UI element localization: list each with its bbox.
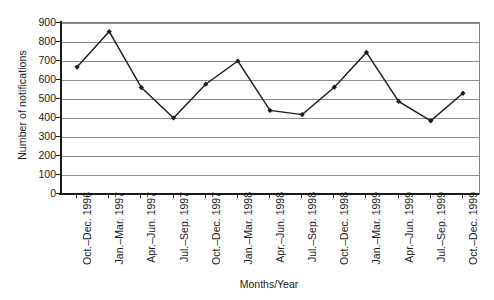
x-axis-tick-label: Jan.–Mar. 1999 (370, 192, 382, 272)
x-axis-tick-label: Oct.–Dec. 1998 (338, 192, 350, 272)
x-axis-tick-label: Oct.–Dec. 1999 (467, 192, 479, 272)
line-chart: Number of notifications 0100200300400500… (0, 0, 494, 300)
x-axis-title: Months/Year (60, 278, 478, 290)
x-axis-tick-label: Apr.–Jun. 1997 (145, 192, 157, 272)
x-axis-tick-label: Jul.–Sep. 1998 (306, 192, 318, 272)
x-axis-tick-label: Jul.–Sep. 1999 (435, 192, 447, 272)
x-axis-tick-label: Jan.–Mar. 1997 (113, 192, 125, 272)
x-axis-tick-label: Apr.–Jun. 1998 (274, 192, 286, 272)
x-axis-tick-labels: Oct.–Dec. 1996Jan.–Mar. 1997Apr.–Jun. 19… (0, 0, 494, 300)
x-axis-tick-label: Jan.–Mar. 1998 (242, 192, 254, 272)
x-axis-tick-label: Oct.–Dec. 1997 (210, 192, 222, 272)
x-axis-tick-label: Apr.–Jun. 1999 (403, 192, 415, 272)
x-axis-tick-label: Jul.–Sep. 1997 (178, 192, 190, 272)
x-axis-tick-label: Oct.–Dec. 1996 (81, 192, 93, 272)
